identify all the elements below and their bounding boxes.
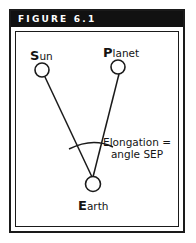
sun-body-circle [35,63,49,77]
figure-number-label: FIGURE 6.1 [11,15,96,24]
sun-label-rest: un [39,50,52,62]
elongation-annotation-line2: angle SEP [103,148,171,160]
sun-label-cap: S [30,48,39,63]
planet-label-cap: P [103,45,113,60]
figure-root: FIGURE 6.1 Sun Planet Earth Elongation =… [0,0,196,243]
sun-label: Sun [30,48,53,63]
earth-label-rest: arth [87,200,109,212]
earth-sun-line [45,77,92,177]
earth-label: Earth [78,198,108,213]
earth-body-circle [86,177,101,192]
diagram-canvas: Sun Planet Earth Elongation = angle SEP [15,31,179,227]
planet-body-circle [111,60,125,74]
figure-caption-bar: FIGURE 6.1 [11,11,183,27]
elongation-annotation-line1: Elongation = [103,136,171,148]
earth-label-cap: E [78,198,87,213]
earth-planet-line [93,74,119,177]
planet-label: Planet [103,45,139,60]
planet-label-rest: lanet [113,47,140,59]
elongation-annotation: Elongation = angle SEP [103,136,171,161]
